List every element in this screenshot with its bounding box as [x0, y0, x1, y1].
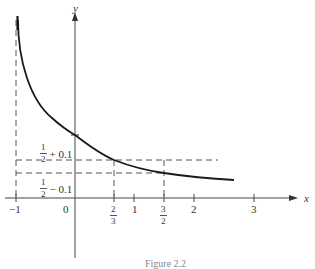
x-tick-label-two-thirds: 2 3 [110, 205, 117, 226]
x-tick-label-1: 1 [132, 204, 138, 215]
x-tick-label-3: 3 [251, 204, 257, 215]
half-fraction: 1 2 [40, 143, 47, 164]
x-tick-label-neg1: −1 [9, 204, 21, 215]
y-axis-label: y [73, 3, 78, 14]
y-level-label-upper: 1 2 + 0.1 [40, 143, 72, 164]
figure-caption: Figure 2.2 [145, 258, 186, 269]
origin-label: 0 [63, 204, 69, 215]
x-tick-label-2: 2 [191, 204, 197, 215]
x-tick-label-three-halves: 3 2 [160, 205, 167, 226]
y-level-label-lower: 1 2 − 0.1 [40, 178, 72, 199]
x-axis-arrow-icon [289, 195, 298, 201]
x-axis-label: x [304, 193, 309, 204]
dashed-guides [16, 20, 218, 198]
half-fraction: 1 2 [40, 178, 47, 199]
